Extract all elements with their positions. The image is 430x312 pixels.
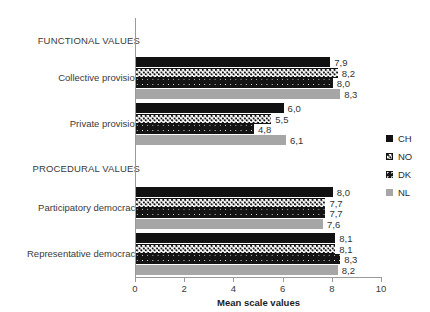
data-label-no-private-provision: 5,5 [275,115,288,125]
x-tick-label-0: 0 [132,283,137,294]
data-label-ch-participatory-democracy: 8,0 [337,188,350,198]
legend: CH NO DK NL [386,129,412,201]
x-tick-label-10: 10 [376,283,387,294]
x-tick-4 [233,277,234,282]
bar-ch-private-provision [136,103,284,113]
data-label-nl-private-provision: 6,1 [290,136,303,146]
data-label-no-participatory-democracy: 7,7 [329,199,342,209]
data-label-dk-private-provision: 4,8 [258,125,271,135]
bar-ch-collective-provision [136,57,330,67]
legend-item-ch: CH [386,129,412,147]
x-axis-title: Mean scale values [135,297,382,308]
data-label-ch-collective-provision: 7,9 [334,58,347,68]
data-label-no-representative-democracy: 8,1 [339,245,352,255]
category-label-representative-democracy: Representative democracy [27,249,140,259]
data-label-nl-collective-provision: 8,3 [344,90,357,100]
data-label-nl-representative-democracy: 8,2 [342,266,355,276]
bar-no-representative-democracy [136,244,335,254]
x-axis-line [135,277,382,278]
data-label-dk-representative-democracy: 8,3 [344,255,357,265]
data-label-dk-participatory-democracy: 7,7 [329,209,342,219]
bar-nl-representative-democracy [136,265,338,275]
x-tick-8 [332,277,333,282]
bar-ch-representative-democracy [136,233,335,243]
x-tick-label-8: 8 [329,283,334,294]
legend-swatch-dk-icon [386,171,393,178]
bar-nl-collective-provision [136,89,340,99]
legend-swatch-no-icon [386,153,393,160]
group-header-procedural: PROCEDURAL VALUES [32,164,140,174]
legend-swatch-nl-icon [386,189,393,196]
legend-item-dk: DK [386,165,412,183]
bar-no-private-provision [136,114,271,124]
x-tick-0 [135,277,136,282]
data-label-dk-collective-provision: 8,0 [337,79,350,89]
data-label-nl-participatory-democracy: 7,6 [327,220,340,230]
data-label-ch-private-provision: 6,0 [288,104,301,114]
x-tick-label-4: 4 [231,283,236,294]
bar-dk-collective-provision [136,78,333,88]
bar-dk-participatory-democracy [136,208,325,218]
bar-ch-participatory-democracy [136,187,333,197]
x-tick-label-2: 2 [182,283,187,294]
legend-label-nl: NL [398,187,410,198]
group-header-functional: FUNCTIONAL VALUES [38,36,140,46]
legend-label-ch: CH [398,133,412,144]
data-label-ch-representative-democracy: 8,1 [339,234,352,244]
x-tick-label-6: 6 [280,283,285,294]
legend-label-dk: DK [398,169,411,180]
y-axis-line [135,18,136,277]
category-label-participatory-democracy: Participatory democracy [38,203,140,213]
legend-item-no: NO [386,147,412,165]
x-tick-2 [184,277,185,282]
legend-swatch-ch-icon [386,135,393,142]
legend-item-nl: NL [386,183,412,201]
bar-no-participatory-democracy [136,198,325,208]
x-tick-6 [283,277,284,282]
bar-nl-participatory-democracy [136,219,323,229]
bar-chart: FUNCTIONAL VALUES Collective provision P… [0,0,430,312]
bar-dk-private-provision [136,124,254,134]
legend-label-no: NO [398,151,412,162]
bar-dk-representative-democracy [136,254,340,264]
x-tick-10 [381,277,382,282]
category-label-collective-provision: Collective provision [58,73,140,83]
data-label-no-collective-provision: 8,2 [342,69,355,79]
category-label-private-provision: Private provision [70,119,140,129]
bar-no-collective-provision [136,68,338,78]
bar-nl-private-provision [136,135,286,145]
